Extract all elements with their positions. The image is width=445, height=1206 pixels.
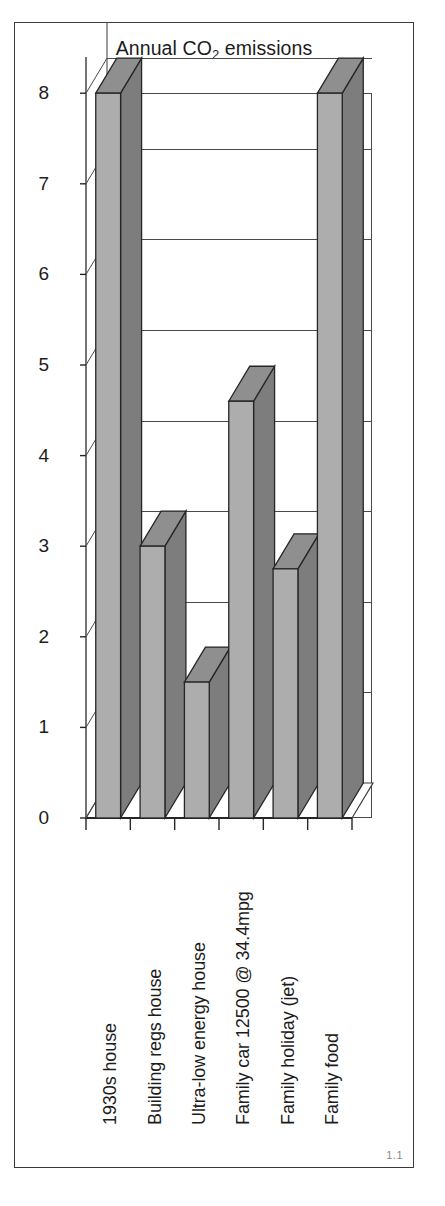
chart-title-main: Annual CO xyxy=(116,37,212,59)
chart-title-subscript: 2 xyxy=(212,47,219,62)
figure-frame: Annual CO2 emissions 012345678 1.1 xyxy=(14,22,414,1168)
bar[interactable] xyxy=(184,647,230,818)
figure-number-caption: 1.1 xyxy=(386,1149,403,1161)
gridline xyxy=(107,58,372,59)
bar-3d-faces xyxy=(72,93,402,835)
chart-title-tail: emissions xyxy=(219,37,312,59)
bar-front-face xyxy=(96,93,121,818)
plot-area xyxy=(72,93,402,835)
bar[interactable] xyxy=(140,511,186,818)
bar-front-face xyxy=(229,401,254,818)
bar-front-face xyxy=(317,93,342,818)
bar-side-face xyxy=(342,58,363,818)
bar-side-face xyxy=(165,511,186,818)
y-tick-label: 0 xyxy=(25,808,49,827)
bar[interactable] xyxy=(273,534,319,818)
y-tick-label: 8 xyxy=(25,83,49,102)
y-tick-label: 7 xyxy=(25,174,49,193)
y-tick-label: 2 xyxy=(25,627,49,646)
bar-side-face xyxy=(121,58,142,818)
y-tick-label: 6 xyxy=(25,264,49,283)
y-tick-label: 1 xyxy=(25,717,49,736)
chart-title: Annual CO2 emissions xyxy=(15,37,413,60)
bar-side-face xyxy=(298,534,319,818)
bar[interactable] xyxy=(317,58,363,818)
bar-side-face xyxy=(254,366,275,818)
y-tick-label: 4 xyxy=(25,446,49,465)
bar-front-face xyxy=(140,546,165,818)
y-tick-label: 3 xyxy=(25,536,49,555)
y-axis-tick-labels: 012345678 xyxy=(15,93,49,835)
bar[interactable] xyxy=(229,366,275,818)
y-tick-label: 5 xyxy=(25,355,49,374)
bar[interactable] xyxy=(96,58,142,818)
bar-front-face xyxy=(273,569,298,818)
bar-front-face xyxy=(184,682,209,818)
